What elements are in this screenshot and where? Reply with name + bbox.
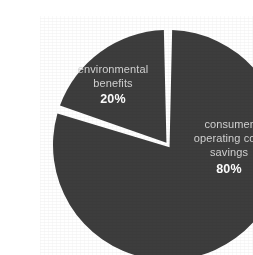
pie-chart-svg [40,16,253,255]
pie-chart-figure: environmental benefits 20% consumer oper… [40,16,253,255]
